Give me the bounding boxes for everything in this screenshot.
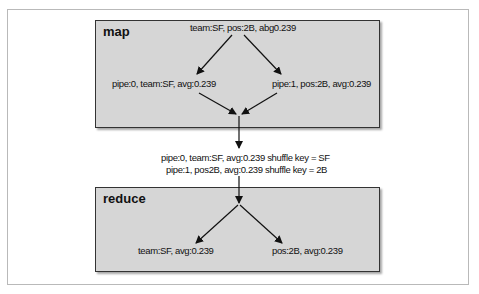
reduce-stage-box: reduce (95, 187, 380, 272)
shuffle-line-2: pipe:1, pos2B, avg:0.239 shuffle key = 2… (166, 164, 327, 175)
map-stage-box: map (95, 20, 380, 128)
reduce-stage-title: reduce (103, 191, 146, 206)
reduce-left-output-label: team:SF, avg:0.239 (138, 245, 214, 256)
map-input-label: team:SF, pos:2B, abg0.239 (190, 22, 296, 33)
reduce-right-output-label: pos:2B, avg:0.239 (272, 245, 343, 256)
map-left-output-label: pipe:0, team:SF, avg:0.239 (112, 78, 216, 89)
map-stage-title: map (103, 24, 130, 39)
map-right-output-label: pipe:1, pos:2B, avg:0.239 (272, 78, 371, 89)
shuffle-line-1: pipe:0, team:SF, avg:0.239 shuffle key =… (161, 152, 330, 163)
